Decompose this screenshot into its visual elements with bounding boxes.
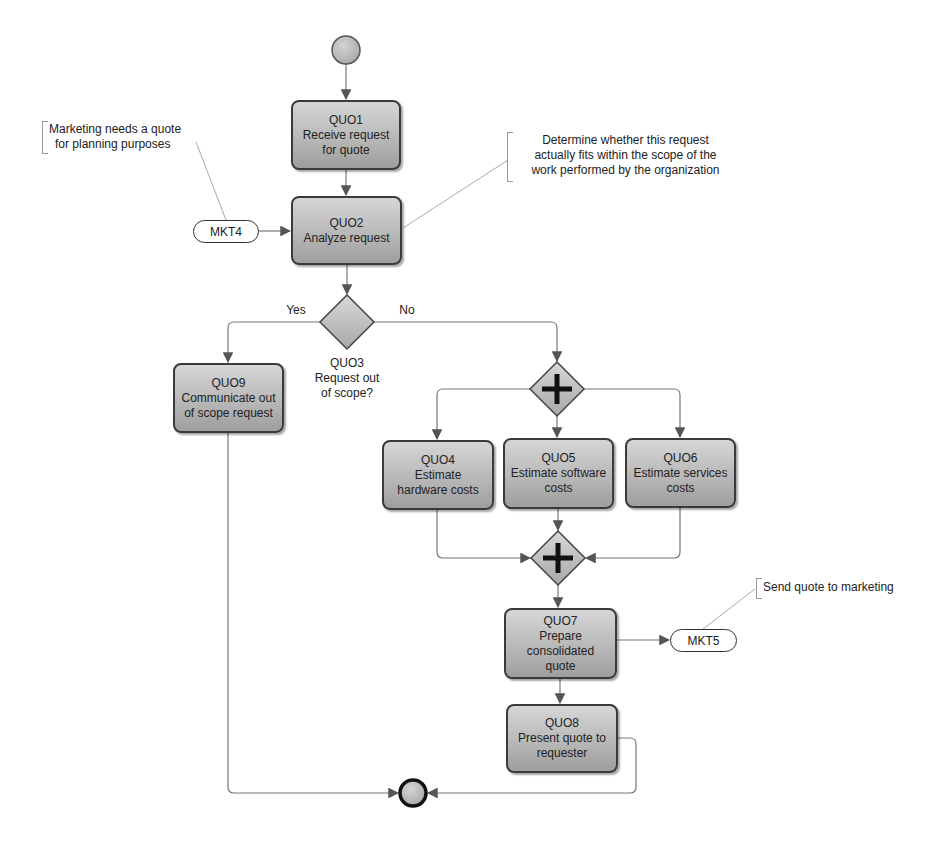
start-event bbox=[332, 36, 360, 64]
task-label: consolidated bbox=[527, 644, 594, 659]
task-id: QUO6 bbox=[663, 451, 697, 466]
external-ref-mkt5[interactable]: MKT5 bbox=[670, 629, 737, 652]
task-label: Estimate software bbox=[511, 466, 606, 481]
annotation-text: Determine whether this request bbox=[514, 133, 737, 148]
task-id: QUO1 bbox=[329, 113, 363, 128]
annotation-text: Marketing needs a quote bbox=[49, 122, 202, 137]
task-label: Analyze request bbox=[303, 231, 389, 246]
decision-text: of scope? bbox=[307, 386, 387, 401]
task-label: hardware costs bbox=[397, 483, 478, 498]
decision-text: Request out bbox=[307, 371, 387, 386]
task-id: QUO9 bbox=[211, 376, 245, 391]
annotation-text: Send quote to marketing bbox=[763, 580, 916, 595]
task-quo7[interactable]: QUO7 Prepare consolidated quote bbox=[504, 608, 617, 679]
task-id: QUO7 bbox=[543, 614, 577, 629]
task-label: Present quote to bbox=[518, 731, 606, 746]
end-event bbox=[400, 780, 426, 806]
task-quo6[interactable]: QUO6 Estimate services costs bbox=[625, 438, 736, 508]
decision-yes-label: Yes bbox=[281, 303, 311, 318]
task-id: QUO5 bbox=[541, 451, 575, 466]
decision-gateway-quo3 bbox=[320, 295, 374, 349]
task-label: requester bbox=[537, 746, 588, 761]
decision-id: QUO3 bbox=[307, 356, 387, 371]
decision-no-label: No bbox=[392, 303, 422, 318]
task-id: QUO2 bbox=[329, 216, 363, 231]
task-label: Prepare bbox=[539, 629, 582, 644]
external-ref-label: MKT5 bbox=[687, 634, 719, 648]
annotation-quo2: Determine whether this request actually … bbox=[507, 132, 737, 182]
task-quo8[interactable]: QUO8 Present quote to requester bbox=[506, 704, 618, 773]
task-label: Receive request bbox=[303, 128, 390, 143]
task-label: Estimate bbox=[415, 468, 462, 483]
task-quo9[interactable]: QUO9 Communicate out of scope request bbox=[173, 363, 284, 433]
task-quo4[interactable]: QUO4 Estimate hardware costs bbox=[382, 440, 494, 510]
task-quo1[interactable]: QUO1 Receive request for quote bbox=[291, 100, 401, 170]
annotation-text: work performed by the organization bbox=[514, 163, 737, 178]
parallel-join-gateway bbox=[531, 531, 585, 585]
task-quo5[interactable]: QUO5 Estimate software costs bbox=[503, 438, 614, 509]
annotation-mkt4: Marketing needs a quote for planning pur… bbox=[42, 121, 202, 154]
annotation-mkt5: Send quote to marketing bbox=[756, 578, 916, 599]
external-ref-mkt4[interactable]: MKT4 bbox=[193, 220, 259, 243]
task-label: quote bbox=[545, 659, 575, 674]
task-label: for quote bbox=[322, 143, 369, 158]
task-label: Communicate out bbox=[181, 391, 275, 406]
task-id: QUO4 bbox=[421, 453, 455, 468]
task-label: Estimate services bbox=[633, 466, 727, 481]
task-quo2[interactable]: QUO2 Analyze request bbox=[291, 196, 402, 265]
annotation-text: for planning purposes bbox=[49, 137, 202, 152]
task-label: costs bbox=[666, 481, 694, 496]
task-label: costs bbox=[544, 481, 572, 496]
annotation-text: actually fits within the scope of the bbox=[514, 148, 737, 163]
task-label: of scope request bbox=[184, 406, 273, 421]
external-ref-label: MKT4 bbox=[210, 225, 242, 239]
task-id: QUO8 bbox=[545, 716, 579, 731]
decision-quo3-label: QUO3 Request out of scope? bbox=[307, 356, 387, 401]
parallel-split-gateway bbox=[530, 362, 584, 416]
